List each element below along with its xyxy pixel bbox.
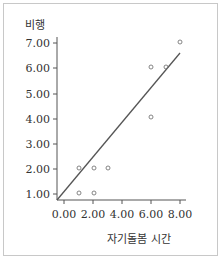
data-point (106, 166, 110, 170)
y-tick-label: 6.00 (26, 62, 51, 75)
y-tick-label: 2.00 (26, 163, 51, 176)
x-axis-title: 자기돌봄 시간 (107, 233, 171, 246)
data-point (149, 115, 153, 119)
data-point (77, 191, 81, 195)
data-point (149, 65, 153, 69)
y-ticks (53, 43, 57, 194)
y-tick-label: 5.00 (26, 88, 51, 101)
y-tick-label: 7.00 (26, 37, 51, 50)
data-point (164, 65, 168, 69)
x-tick-label: 4.00 (110, 208, 135, 221)
x-tick-label: 2.00 (81, 208, 106, 221)
x-tick-label: 8.00 (168, 208, 193, 221)
y-tick-label: 3.00 (26, 138, 51, 151)
x-tick-label: 0.00 (52, 208, 77, 221)
y-tick-label: 4.00 (26, 113, 51, 126)
y-tick-labels: 7.00 6.00 5.00 4.00 3.00 2.00 1.00 (26, 37, 51, 201)
x-tick-label: 6.00 (139, 208, 164, 221)
x-tick-labels: 0.00 2.00 4.00 6.00 8.00 (52, 208, 193, 221)
scatter-chart: 비행 7.00 6.00 5.00 4.00 3.00 2.00 1.00 0.… (0, 0, 222, 262)
y-tick-label: 1.00 (26, 188, 51, 201)
data-point (92, 191, 96, 195)
data-point (77, 166, 81, 170)
data-point (178, 40, 182, 44)
x-ticks (64, 200, 180, 204)
data-points (77, 40, 182, 195)
y-axis-title: 비행 (25, 19, 45, 32)
data-point (92, 166, 96, 170)
regression-line (57, 53, 180, 200)
